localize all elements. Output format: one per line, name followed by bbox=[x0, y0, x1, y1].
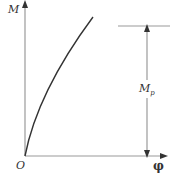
plastic-moment-label-sub: p bbox=[150, 89, 154, 97]
y-axis-label: M bbox=[8, 4, 19, 15]
moment-curve bbox=[25, 17, 93, 156]
plastic-moment-label-main: M bbox=[139, 82, 150, 95]
x-axis-label: φ bbox=[153, 160, 164, 172]
plastic-moment-label: Mp bbox=[139, 82, 155, 98]
moment-curvature-diagram: M O φ Mp bbox=[0, 0, 176, 178]
origin-label: O bbox=[16, 160, 25, 171]
